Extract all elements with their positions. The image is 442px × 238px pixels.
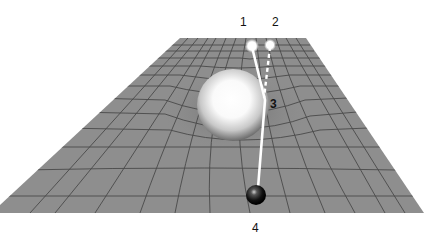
source-point-1	[245, 39, 259, 53]
observer-sphere	[246, 185, 266, 205]
label-3: 3	[270, 98, 277, 110]
source-point-2	[264, 39, 276, 51]
spacetime-illustration	[0, 0, 442, 238]
lensing-diagram: 1 2 3 4	[0, 0, 442, 238]
label-2: 2	[272, 16, 279, 28]
label-4: 4	[252, 222, 259, 234]
massive-sphere	[197, 69, 269, 141]
label-1: 1	[240, 16, 247, 28]
